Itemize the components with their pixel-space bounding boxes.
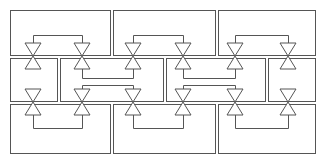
valve-triangle-down-icon bbox=[25, 43, 41, 56]
valve-triangle-up-icon bbox=[74, 102, 90, 115]
valve-triangle-up-icon bbox=[227, 56, 243, 69]
valve-triangle-down-icon bbox=[125, 43, 141, 56]
top-link-1 bbox=[34, 36, 83, 44]
valve-triangle-up-icon bbox=[175, 56, 191, 69]
valve-triangle-down-icon bbox=[175, 43, 191, 56]
links-layer bbox=[34, 36, 289, 129]
valve-triangle-down-icon bbox=[227, 89, 243, 102]
valve-triangle-up-icon bbox=[125, 56, 141, 69]
valve-triangle-down-icon bbox=[280, 89, 296, 102]
top-link-3 bbox=[236, 36, 289, 44]
valve-triangle-down-icon bbox=[227, 43, 243, 56]
valve-triangle-up-icon bbox=[25, 56, 41, 69]
valve-triangle-up-icon bbox=[125, 102, 141, 115]
valve-triangle-up-icon bbox=[280, 56, 296, 69]
valve-triangle-down-icon bbox=[74, 89, 90, 102]
valve-triangle-up-icon bbox=[227, 102, 243, 115]
cells-layer bbox=[11, 11, 316, 154]
valve-triangle-down-icon bbox=[125, 89, 141, 102]
mid-lower-link-1 bbox=[83, 86, 134, 90]
bottom-link-2 bbox=[134, 115, 184, 129]
mid-upper-link-2 bbox=[184, 69, 236, 79]
valve-triangle-up-icon bbox=[175, 102, 191, 115]
valve-triangle-down-icon bbox=[280, 43, 296, 56]
top-row-cell-1 bbox=[11, 11, 111, 56]
valve-triangle-down-icon bbox=[74, 43, 90, 56]
valve-triangle-up-icon bbox=[25, 102, 41, 115]
mid-lower-link-2 bbox=[184, 86, 236, 90]
valve-grid-diagram bbox=[0, 0, 322, 159]
top-link-2 bbox=[134, 36, 184, 44]
valve-triangle-up-icon bbox=[280, 102, 296, 115]
bottom-link-3 bbox=[236, 115, 289, 129]
valve-triangle-down-icon bbox=[25, 89, 41, 102]
bottom-link-1 bbox=[34, 115, 83, 129]
valve-triangle-up-icon bbox=[74, 56, 90, 69]
valve-triangle-down-icon bbox=[175, 89, 191, 102]
mid-upper-link-1 bbox=[83, 69, 134, 79]
